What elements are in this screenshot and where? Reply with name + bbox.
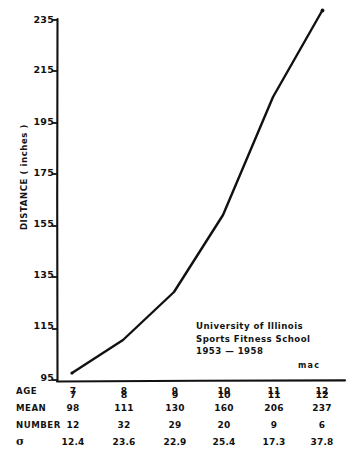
x-axis-line bbox=[57, 380, 345, 381]
table-cell: 12.4 bbox=[51, 437, 95, 447]
table-cell: 160 bbox=[202, 403, 246, 413]
table-cell: 237 bbox=[300, 403, 344, 413]
table-cell: 32 bbox=[102, 420, 146, 430]
annotation-line-1: University of Illinois bbox=[196, 320, 310, 333]
table-cell: 12 bbox=[51, 420, 95, 430]
table-row: MEAN 98 111 130 160 206 237 bbox=[0, 403, 354, 420]
data-point-age-7 bbox=[70, 371, 73, 374]
table-row: σ 12.4 23.6 22.9 25.4 17.3 37.8 bbox=[0, 437, 354, 454]
annotation-line-2: Sports Fitness School bbox=[196, 333, 310, 346]
table-cell: 6 bbox=[300, 420, 344, 430]
data-point-age-12 bbox=[321, 9, 325, 13]
chart-annotation: University of Illinois Sports Fitness Sc… bbox=[196, 320, 310, 358]
table-cell: 22.9 bbox=[153, 437, 197, 447]
table-cell: 10 bbox=[202, 386, 246, 396]
distance-vs-age-line-chart: DISTANCE ( inches ) 235 215 195 175 155 … bbox=[0, 0, 354, 459]
table-cell: 20 bbox=[202, 420, 246, 430]
table-cell: 29 bbox=[153, 420, 197, 430]
artist-signature: mac bbox=[298, 361, 320, 370]
table-cell: 12 bbox=[300, 386, 344, 396]
table-cell: 11 bbox=[252, 386, 296, 396]
table-cell: 9 bbox=[252, 420, 296, 430]
table-cell: 130 bbox=[153, 403, 197, 413]
annotation-line-3: 1953 — 1958 bbox=[196, 345, 310, 358]
table-cell: 206 bbox=[252, 403, 296, 413]
table-row: NUMBER 12 32 29 20 9 6 bbox=[0, 420, 354, 437]
data-series-line bbox=[72, 11, 322, 373]
table-cell: 17.3 bbox=[252, 437, 296, 447]
table-cell: 37.8 bbox=[300, 437, 344, 447]
table-row: AGE 7 8 9 10 11 12 bbox=[0, 386, 354, 403]
row-label-age: AGE bbox=[16, 386, 37, 396]
table-cell: 23.6 bbox=[102, 437, 146, 447]
table-cell: 111 bbox=[102, 403, 146, 413]
table-cell: 9 bbox=[153, 386, 197, 396]
statistics-table: AGE 7 8 9 10 11 12 MEAN 98 111 130 160 2… bbox=[0, 386, 354, 454]
row-label-sigma: σ bbox=[16, 435, 25, 448]
table-cell: 98 bbox=[51, 403, 95, 413]
table-cell: 8 bbox=[102, 386, 146, 396]
row-label-mean: MEAN bbox=[16, 403, 46, 413]
table-cell: 7 bbox=[51, 386, 95, 396]
table-cell: 25.4 bbox=[202, 437, 246, 447]
